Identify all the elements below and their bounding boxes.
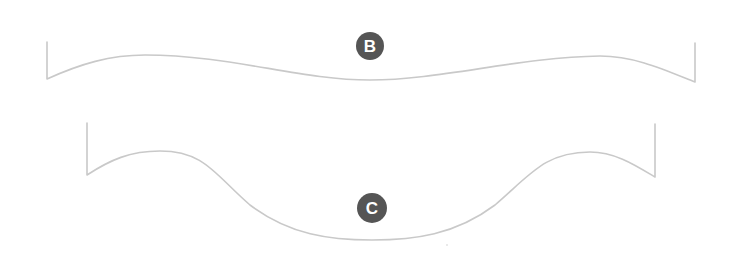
badge-c-label: C — [366, 199, 378, 218]
badge-c: C — [357, 193, 387, 223]
curve-diagram: B C — [0, 0, 730, 258]
badge-b: B — [356, 32, 384, 60]
stray-dot — [446, 244, 448, 246]
badge-b-label: B — [364, 37, 376, 56]
